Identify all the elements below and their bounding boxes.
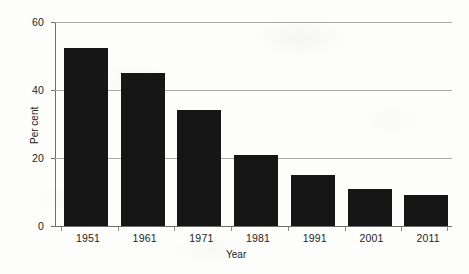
x-axis-tick-label-1971: 1971 (173, 233, 229, 245)
x-axis-tick-mark-6 (401, 227, 402, 231)
x-axis-tick-mark-5 (345, 227, 346, 231)
x-axis-tick-mark-0 (61, 227, 62, 231)
y-axis-tick-label-60: 60 (20, 17, 44, 28)
bar-chart: Per cent 60 40 20 0 1951 1961 1971 1981 … (0, 0, 469, 274)
y-axis-tick-label-0: 0 (20, 221, 44, 232)
bar-1971 (177, 110, 221, 226)
bar-1991 (291, 175, 335, 226)
x-axis-tick-mark-3 (231, 227, 232, 231)
gridline-40 (55, 90, 452, 91)
x-axis-tick-mark-7 (447, 227, 448, 231)
x-axis-title: Year (226, 249, 246, 260)
x-axis-tick-mark-2 (174, 227, 175, 231)
bar-1951 (64, 48, 108, 227)
bar-2011 (404, 195, 448, 226)
x-axis-tick-label-1961: 1961 (117, 233, 173, 245)
x-axis-tick-label-1981: 1981 (230, 233, 286, 245)
x-axis-tick-mark-1 (118, 227, 119, 231)
y-axis-tick-label-20: 20 (20, 153, 44, 164)
x-axis-tick-mark-4 (288, 227, 289, 231)
x-axis-tick-label-2001: 2001 (344, 233, 400, 245)
x-axis-tick-label-2011: 2011 (400, 233, 456, 245)
y-axis-title: Per cent (30, 107, 40, 144)
bar-2001 (348, 189, 392, 226)
bar-1981 (234, 155, 278, 226)
plot-area (55, 22, 452, 226)
y-axis-tick-label-40: 40 (20, 85, 44, 96)
x-axis-tick-label-1951: 1951 (60, 233, 116, 245)
bar-1961 (121, 73, 165, 226)
x-axis-line (55, 226, 452, 227)
x-axis-tick-label-1991: 1991 (287, 233, 343, 245)
gridline-60 (55, 22, 452, 23)
